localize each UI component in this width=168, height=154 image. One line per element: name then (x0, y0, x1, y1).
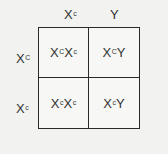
allele-base: Y (110, 7, 119, 22)
allele-base: Y (116, 96, 125, 111)
allele-superscript: c (73, 99, 77, 106)
allele-superscript: c (60, 99, 64, 106)
allele-superscript: c (73, 48, 77, 55)
allele-base: X (103, 45, 112, 60)
allele-base: X (16, 101, 25, 116)
allele-base: X (51, 96, 60, 111)
cell-r2-c1: XcXc (39, 78, 89, 128)
allele-base: X (64, 96, 73, 111)
column-header-1: Xc (64, 8, 77, 21)
punnett-grid: XCXc XCY XcXc XcY (38, 27, 140, 129)
allele-superscript: c (25, 104, 29, 111)
allele-superscript: c (113, 99, 117, 106)
column-header-2: Y (110, 8, 119, 21)
row-header-2: Xc (16, 102, 29, 115)
cell-r2-c2: XcY (89, 78, 139, 128)
allele-base: Y (117, 45, 126, 60)
allele-superscript: C (59, 48, 64, 55)
allele-base: X (64, 7, 73, 22)
allele-base: X (64, 45, 73, 60)
allele-base: X (103, 96, 112, 111)
allele-base: X (16, 51, 25, 66)
allele-base: X (50, 45, 59, 60)
cell-r1-c2: XCY (89, 28, 139, 78)
allele-superscript: c (73, 10, 77, 17)
allele-superscript: C (112, 48, 117, 55)
row-header-1: XC (16, 52, 30, 65)
allele-superscript: C (25, 54, 30, 61)
cell-r1-c1: XCXc (39, 28, 89, 78)
